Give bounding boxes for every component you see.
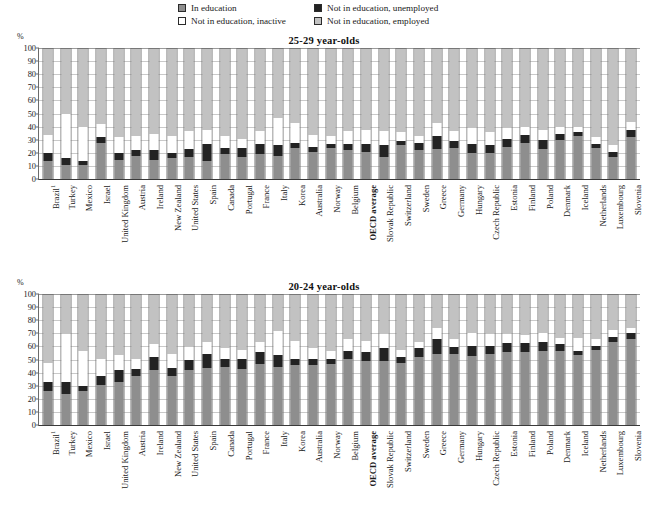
stacked-bar[interactable]: [608, 48, 619, 179]
stacked-bar[interactable]: [307, 48, 318, 179]
stacked-bar[interactable]: [60, 294, 71, 425]
stacked-bar[interactable]: [325, 48, 336, 179]
stacked-bar[interactable]: [113, 48, 124, 179]
bar-segment-employed: [573, 49, 582, 127]
x-label-slot: Iceland: [569, 182, 587, 272]
stacked-bar[interactable]: [519, 48, 530, 179]
stacked-bar[interactable]: [166, 48, 177, 179]
stacked-bar[interactable]: [131, 48, 142, 179]
stacked-bar[interactable]: [449, 48, 460, 179]
stacked-bar[interactable]: [590, 294, 601, 425]
stacked-bar[interactable]: [113, 294, 124, 425]
stacked-bar[interactable]: [272, 48, 283, 179]
bar-slot: [463, 48, 481, 179]
stacked-bar[interactable]: [219, 48, 230, 179]
stacked-bar[interactable]: [572, 48, 583, 179]
stacked-bar[interactable]: [449, 294, 460, 425]
stacked-bar[interactable]: [237, 48, 248, 179]
stacked-bar[interactable]: [254, 48, 265, 179]
stacked-bar[interactable]: [148, 48, 159, 179]
stacked-bar[interactable]: [519, 294, 530, 425]
stacked-bar[interactable]: [254, 294, 265, 425]
stacked-bar[interactable]: [378, 48, 389, 179]
stacked-bar[interactable]: [42, 294, 53, 425]
bar-segment-unemployed: [255, 144, 264, 154]
stacked-bar[interactable]: [555, 48, 566, 179]
stacked-bar[interactable]: [572, 294, 583, 425]
stacked-bar[interactable]: [413, 48, 424, 179]
stacked-bar[interactable]: [219, 294, 230, 425]
stacked-bar[interactable]: [95, 48, 106, 179]
stacked-bar[interactable]: [537, 294, 548, 425]
x-label-slot: Austria: [127, 428, 145, 518]
stacked-bar[interactable]: [325, 294, 336, 425]
bar-segment-in-education: [43, 391, 52, 425]
bar-segment-employed: [273, 295, 282, 331]
bar-segment-in-education: [397, 145, 406, 179]
stacked-bar[interactable]: [466, 294, 477, 425]
stacked-bar[interactable]: [431, 48, 442, 179]
stacked-bar[interactable]: [131, 294, 142, 425]
stacked-bar[interactable]: [537, 48, 548, 179]
bar-segment-in-education: [414, 150, 423, 179]
bar-segment-in-education: [291, 148, 300, 179]
stacked-bar[interactable]: [626, 48, 637, 179]
legend-label-employed: Not in education, employed: [327, 17, 429, 26]
stacked-bar[interactable]: [626, 294, 637, 425]
bar-segment-in-education: [114, 160, 123, 180]
bar-segment-in-education: [591, 350, 600, 425]
stacked-bar[interactable]: [184, 294, 195, 425]
x-label-slot: Denmark: [551, 182, 569, 272]
chart-title-25-29: 25-29 year-olds: [0, 35, 648, 46]
bar-segment-unemployed: [379, 145, 388, 157]
bar-segment-employed: [255, 295, 264, 342]
stacked-bar[interactable]: [237, 294, 248, 425]
stacked-bar[interactable]: [413, 294, 424, 425]
stacked-bar[interactable]: [166, 294, 177, 425]
bar-segment-employed: [467, 49, 476, 128]
y-axis-tick-label: 100: [23, 44, 36, 53]
stacked-bar[interactable]: [60, 48, 71, 179]
stacked-bar[interactable]: [608, 294, 619, 425]
bar-segment-unemployed: [520, 343, 529, 352]
stacked-bar[interactable]: [343, 48, 354, 179]
bar-segment-unemployed: [149, 357, 158, 370]
bar-segment-in-education: [149, 370, 158, 425]
stacked-bar[interactable]: [484, 48, 495, 179]
stacked-bar[interactable]: [78, 294, 89, 425]
stacked-bar[interactable]: [431, 294, 442, 425]
bar-segment-employed: [379, 295, 388, 334]
stacked-bar[interactable]: [42, 48, 53, 179]
stacked-bar[interactable]: [290, 294, 301, 425]
bar-slot: [127, 48, 145, 179]
stacked-bar[interactable]: [378, 294, 389, 425]
bar-segment-in-education: [167, 376, 176, 425]
bar-segment-unemployed: [361, 352, 370, 361]
stacked-bar[interactable]: [502, 294, 513, 425]
stacked-bar[interactable]: [272, 294, 283, 425]
stacked-bar[interactable]: [466, 48, 477, 179]
stacked-bar[interactable]: [396, 48, 407, 179]
stacked-bar[interactable]: [590, 48, 601, 179]
stacked-bar[interactable]: [290, 48, 301, 179]
stacked-bar[interactable]: [307, 294, 318, 425]
stacked-bar[interactable]: [360, 294, 371, 425]
bar-segment-in-education: [573, 136, 582, 179]
stacked-bar[interactable]: [78, 48, 89, 179]
stacked-bar[interactable]: [95, 294, 106, 425]
stacked-bar[interactable]: [555, 294, 566, 425]
stacked-bar[interactable]: [484, 294, 495, 425]
bar-segment-inactive: [185, 131, 194, 149]
x-label-slot: Slovak Republic: [374, 182, 392, 272]
bar-segment-inactive: [43, 363, 52, 383]
stacked-bar[interactable]: [201, 294, 212, 425]
stacked-bar[interactable]: [201, 48, 212, 179]
stacked-bar[interactable]: [148, 294, 159, 425]
bar-segment-employed: [185, 295, 194, 347]
stacked-bar[interactable]: [502, 48, 513, 179]
stacked-bar[interactable]: [396, 294, 407, 425]
bar-segment-inactive: [202, 342, 211, 354]
stacked-bar[interactable]: [343, 294, 354, 425]
stacked-bar[interactable]: [360, 48, 371, 179]
stacked-bar[interactable]: [184, 48, 195, 179]
